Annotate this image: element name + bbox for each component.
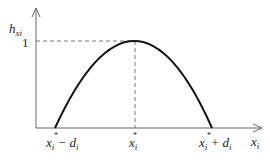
y-axis-label: hxi [9, 22, 22, 38]
y-tick-1: 1 [22, 36, 29, 49]
diagram: hxi 1 xi *xi − di *xi *xi + di [0, 0, 270, 160]
x-axis-label: xi [251, 135, 259, 151]
x-tick-left: *xi − di [46, 136, 79, 152]
x-tick-center: *xi [129, 136, 137, 152]
x-tick-right: *xi + di [199, 136, 232, 152]
parabola-curve [55, 41, 212, 128]
